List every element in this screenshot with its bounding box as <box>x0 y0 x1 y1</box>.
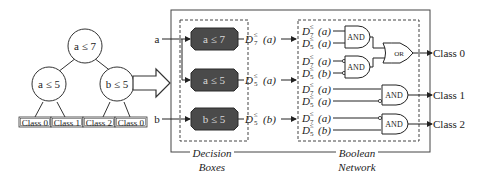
decision-output-sup: ≤ <box>254 111 258 119</box>
tree-leaf-label: Class 0 <box>118 118 145 128</box>
svg-text:(a): (a) <box>318 37 331 50</box>
input-a-branch-wire <box>182 39 190 80</box>
decision-output-sub: 5 <box>254 80 258 88</box>
tree-edge <box>58 58 76 72</box>
svg-text:D: D <box>301 25 310 37</box>
svg-text:≤: ≤ <box>310 35 314 43</box>
and-gate-label: AND <box>347 63 365 72</box>
svg-text:D: D <box>301 55 310 67</box>
tree-leaf-label: Class 0 <box>22 118 49 128</box>
tree-leaf: Class 0 <box>19 117 51 128</box>
boolean-network-caption-line1: Boolean <box>339 147 376 159</box>
svg-text:(a): (a) <box>318 95 331 108</box>
and-gate-label: AND <box>385 91 403 100</box>
and-gate: AND <box>382 114 408 134</box>
decision-box-label: b ≤ 5 <box>203 113 226 125</box>
svg-text:≤: ≤ <box>310 93 314 101</box>
tree-node-right: b ≤ 5 <box>100 67 134 101</box>
decision-output: D ≤ 5 (a) <box>238 72 296 88</box>
svg-text:5: 5 <box>310 101 314 109</box>
decision-boxes-caption-line2: Boxes <box>199 161 225 173</box>
svg-text:D: D <box>301 67 310 79</box>
svg-text:D: D <box>301 37 310 49</box>
decision-output-arg: (b) <box>263 113 276 126</box>
tree-leaf: Class 2 <box>83 117 115 128</box>
svg-text:5: 5 <box>310 43 314 51</box>
svg-text:D: D <box>301 83 310 95</box>
decision-output-D: D <box>244 74 253 86</box>
svg-text:≤: ≤ <box>310 65 314 73</box>
output-label-class1: Class 1 <box>433 89 465 101</box>
decision-box: a ≤ 5 <box>191 69 238 91</box>
tree-node-left: a ≤ 5 <box>32 67 66 101</box>
input-a-label: a <box>155 33 160 45</box>
transform-arrow-icon <box>133 69 170 97</box>
svg-text:D: D <box>301 112 310 124</box>
tree-leaf: Class 0 <box>115 117 147 128</box>
decision-boxes-caption-line1: Decision <box>191 147 232 159</box>
svg-text:≤: ≤ <box>310 81 314 89</box>
output-label-class2: Class 2 <box>433 118 465 130</box>
tree-leaf-label: Class 1 <box>54 118 80 128</box>
and-gate-label: AND <box>385 120 403 129</box>
decision-tree: a ≤ 7 a ≤ 5 b ≤ 5 Class 0 Class 1 Class … <box>19 29 147 128</box>
output-label-class0: Class 0 <box>433 47 466 59</box>
svg-text:5: 5 <box>310 130 314 138</box>
and-gate: AND <box>345 56 370 78</box>
svg-text:≤: ≤ <box>310 110 314 118</box>
svg-text:D: D <box>301 124 310 136</box>
tree-node-left-label: a ≤ 5 <box>38 78 60 90</box>
boolean-input-term: D ≤ 5 (b) <box>301 65 331 81</box>
decision-output: D ≤ 7 (a) <box>238 31 296 47</box>
svg-text:≤: ≤ <box>310 53 314 61</box>
input-b-label: b <box>154 113 160 125</box>
tree-node-root-label: a ≤ 7 <box>74 40 96 52</box>
svg-text:(b): (b) <box>318 124 331 137</box>
tree-node-root: a ≤ 7 <box>68 29 102 63</box>
tree-edge <box>35 102 43 117</box>
decision-output-arg: (a) <box>263 74 276 87</box>
inverter-bubble-icon <box>378 116 381 119</box>
boolean-network-caption-line2: Network <box>337 161 376 173</box>
and-gate: AND <box>345 26 370 48</box>
boolean-input-term: D ≤ 5 (a) <box>301 93 331 109</box>
tree-leaf: Class 1 <box>51 117 83 128</box>
tree-leaf-label: Class 2 <box>86 118 112 128</box>
tree-edge <box>124 102 130 117</box>
svg-text:(b): (b) <box>318 67 331 80</box>
tree-node-right-label: b ≤ 5 <box>106 78 129 90</box>
decision-box: a ≤ 7 <box>191 28 238 50</box>
decision-output-sup: ≤ <box>254 31 258 39</box>
and-gate: AND <box>382 85 408 105</box>
decision-box-label: a ≤ 7 <box>203 33 225 45</box>
svg-text:D: D <box>301 95 310 107</box>
decision-box-label: a ≤ 5 <box>203 74 225 86</box>
decision-output-D: D <box>244 113 253 125</box>
and-gate-label: AND <box>347 33 365 42</box>
decision-output-arg: (a) <box>263 33 276 46</box>
decision-output: D ≤ 5 (b) <box>238 111 296 127</box>
svg-text:≤: ≤ <box>310 122 314 130</box>
inverter-bubble-icon <box>378 99 381 102</box>
svg-text:5: 5 <box>310 73 314 81</box>
decision-output-sup: ≤ <box>254 72 258 80</box>
or-gate-label: OR <box>394 50 404 58</box>
decision-output-sub: 5 <box>254 119 258 127</box>
decision-output-sub: 7 <box>254 39 258 47</box>
tree-edge <box>103 102 110 117</box>
diagram-canvas: a ≤ 7 a ≤ 5 b ≤ 5 Class 0 Class 1 Class … <box>0 0 478 181</box>
or-gate: OR <box>383 43 413 63</box>
svg-text:≤: ≤ <box>310 23 314 31</box>
boolean-input-term: D ≤ 5 (a) <box>301 35 331 51</box>
decision-output-D: D <box>244 33 253 45</box>
tree-edge <box>57 102 65 117</box>
decision-box: b ≤ 5 <box>191 108 238 130</box>
boolean-input-term: D ≤ 5 (b) <box>301 122 331 138</box>
